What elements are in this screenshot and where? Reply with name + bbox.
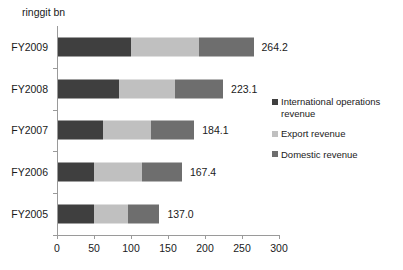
bar-segment[interactable] xyxy=(128,205,159,224)
bar-segment[interactable] xyxy=(94,205,129,224)
stacked-bar[interactable] xyxy=(58,79,223,98)
x-axis-tick xyxy=(168,235,169,239)
legend-label: Export revenue xyxy=(281,128,400,140)
bar-segment[interactable] xyxy=(199,37,254,56)
chart-category-row: FY2006167.4 xyxy=(57,151,279,193)
x-axis-tick-label: 0 xyxy=(54,242,60,254)
bar-total-label: 137.0 xyxy=(167,208,193,220)
stacked-bar[interactable] xyxy=(58,163,182,182)
legend-swatch-icon xyxy=(272,99,278,105)
x-axis-tick xyxy=(279,235,280,239)
axis-title: ringgit bn xyxy=(22,6,65,18)
chart-legend: International operations revenueExport r… xyxy=(272,96,400,169)
y-axis-tick-label: FY2008 xyxy=(11,83,48,95)
stacked-bar[interactable] xyxy=(58,37,254,56)
legend-swatch-icon xyxy=(272,151,278,157)
stacked-bar[interactable] xyxy=(58,205,159,224)
chart-category-row: FY2007184.1 xyxy=(57,110,279,152)
x-axis-tick xyxy=(242,235,243,239)
bar-segment[interactable] xyxy=(142,163,182,182)
bar-segment[interactable] xyxy=(58,37,131,56)
legend-label: Domestic revenue xyxy=(281,149,400,161)
x-axis-tick-label: 250 xyxy=(233,242,251,254)
y-axis-tick-label: FY2007 xyxy=(11,124,48,136)
plot-area: FY2009264.2FY2008223.1FY2007184.1FY20061… xyxy=(57,26,279,235)
bar-segment[interactable] xyxy=(58,121,103,140)
x-axis-tick xyxy=(205,235,206,239)
bar-segment[interactable] xyxy=(58,163,94,182)
x-axis-tick-label: 50 xyxy=(88,242,100,254)
x-axis-tick-label: 100 xyxy=(122,242,140,254)
legend-item[interactable]: International operations revenue xyxy=(272,96,400,119)
legend-item[interactable]: Domestic revenue xyxy=(272,149,400,161)
legend-label: International operations revenue xyxy=(281,96,400,119)
bar-total-label: 167.4 xyxy=(190,166,216,178)
x-axis-tick xyxy=(57,235,58,239)
y-axis-tick-label: FY2006 xyxy=(11,166,48,178)
legend-swatch-icon xyxy=(272,131,278,137)
bar-segment[interactable] xyxy=(119,79,175,98)
chart-category-row: FY2005137.0 xyxy=(57,193,279,235)
x-axis-tick-label: 150 xyxy=(159,242,177,254)
x-axis-tick xyxy=(131,235,132,239)
stacked-bar[interactable] xyxy=(58,121,194,140)
bar-segment[interactable] xyxy=(151,121,194,140)
bar-total-label: 223.1 xyxy=(231,83,257,95)
bar-total-label: 264.2 xyxy=(262,41,288,53)
bar-segment[interactable] xyxy=(58,79,119,98)
y-axis-tick-label: FY2009 xyxy=(11,41,48,53)
bar-segment[interactable] xyxy=(131,37,199,56)
chart-category-row: FY2008223.1 xyxy=(57,68,279,110)
bar-total-label: 184.1 xyxy=(202,124,228,136)
x-axis-tick-label: 200 xyxy=(196,242,214,254)
bar-segment[interactable] xyxy=(58,205,94,224)
x-axis-tick xyxy=(94,235,95,239)
legend-item[interactable]: Export revenue xyxy=(272,128,400,140)
bar-segment[interactable] xyxy=(175,79,223,98)
x-axis-tick-label: 300 xyxy=(270,242,288,254)
chart-category-row: FY2009264.2 xyxy=(57,26,279,68)
bar-segment[interactable] xyxy=(94,163,142,182)
bar-segment[interactable] xyxy=(103,121,151,140)
y-axis-tick-label: FY2005 xyxy=(11,208,48,220)
